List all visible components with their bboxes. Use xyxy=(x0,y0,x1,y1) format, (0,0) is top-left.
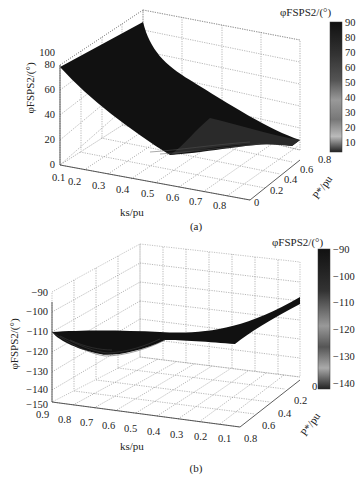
svg-text:40: 40 xyxy=(345,92,356,103)
z-ticks-a: 0 20 40 60 80 100 xyxy=(39,47,55,170)
svg-text:0.2: 0.2 xyxy=(294,395,307,406)
z-axis-label-a: φFSPS2/(°) xyxy=(24,62,37,113)
svg-text:0.4: 0.4 xyxy=(116,184,130,195)
svg-text:−110: −110 xyxy=(333,297,354,308)
svg-text:−100: −100 xyxy=(333,271,355,282)
z-ticks-b: −90 −100 −110 −120 −130 −140 −150 xyxy=(26,287,48,410)
y-axis-label-a: P*/pu xyxy=(310,173,335,201)
chart-panel-a: 0 20 40 60 80 100 φFSPS2/(°) 0.1 0.2 0.3… xyxy=(0,0,360,232)
svg-text:40: 40 xyxy=(45,109,56,120)
svg-text:70: 70 xyxy=(345,47,356,58)
svg-text:0.4: 0.4 xyxy=(278,408,292,419)
svg-text:−130: −130 xyxy=(333,351,355,362)
svg-text:0.4: 0.4 xyxy=(284,174,298,185)
z-axis-label-b: φFSPS2/(°) xyxy=(8,318,21,369)
svg-text:20: 20 xyxy=(345,122,356,133)
svg-text:0.1: 0.1 xyxy=(218,433,231,444)
svg-text:−140: −140 xyxy=(333,378,355,389)
svg-text:0.8: 0.8 xyxy=(318,154,331,165)
svg-text:−130: −130 xyxy=(26,366,48,377)
svg-text:0.3: 0.3 xyxy=(170,429,183,440)
colorbar-title-b: φFSPS2/(°) xyxy=(272,236,323,249)
svg-text:0.8: 0.8 xyxy=(58,414,71,425)
svg-text:0.7: 0.7 xyxy=(80,417,93,428)
svg-text:0: 0 xyxy=(50,159,55,170)
svg-text:0.9: 0.9 xyxy=(36,409,49,420)
svg-text:0.6: 0.6 xyxy=(166,192,179,203)
x-axis-label-a: ks/pu xyxy=(120,206,144,218)
svg-text:80: 80 xyxy=(45,59,56,70)
x-axis-label-b: ks/pu xyxy=(120,440,144,452)
svg-text:−100: −100 xyxy=(26,306,48,317)
svg-text:0.1: 0.1 xyxy=(52,172,65,183)
svg-text:0.8: 0.8 xyxy=(213,200,226,211)
svg-text:0.5: 0.5 xyxy=(141,188,154,199)
svg-text:−120: −120 xyxy=(333,324,355,335)
svg-text:0.4: 0.4 xyxy=(147,426,161,437)
svg-text:20: 20 xyxy=(45,134,56,145)
svg-text:60: 60 xyxy=(345,62,356,73)
svg-text:0.2: 0.2 xyxy=(270,185,283,196)
surface-plot-a: 0 20 40 60 80 100 φFSPS2/(°) 0.1 0.2 0.3… xyxy=(0,0,360,232)
svg-text:0.6: 0.6 xyxy=(262,420,275,431)
svg-text:−90: −90 xyxy=(32,287,48,298)
caption-b: (b) xyxy=(190,462,203,475)
svg-text:80: 80 xyxy=(345,32,356,43)
svg-text:0.2: 0.2 xyxy=(68,176,81,187)
svg-text:−90: −90 xyxy=(333,244,349,255)
colorbar-a xyxy=(330,22,342,152)
caption-a: (a) xyxy=(190,220,203,232)
svg-text:0.2: 0.2 xyxy=(194,431,207,442)
x-ticks-b: 0.9 0.8 0.7 0.6 0.5 0.4 0.3 0.2 0.1 xyxy=(36,409,231,444)
svg-text:0.3: 0.3 xyxy=(92,180,105,191)
svg-text:30: 30 xyxy=(345,107,356,118)
svg-text:0.8: 0.8 xyxy=(244,433,257,444)
svg-text:90: 90 xyxy=(345,17,356,28)
colorbar-ticks-b: −90 −100 −110 −120 −130 −140 xyxy=(333,244,355,389)
svg-text:0.6: 0.6 xyxy=(102,420,115,431)
colorbar-title-a: φFSPS2/(°) xyxy=(280,6,331,19)
svg-text:−140: −140 xyxy=(26,384,48,395)
svg-text:0.7: 0.7 xyxy=(189,196,202,207)
svg-text:10: 10 xyxy=(345,137,356,148)
x-axis-a xyxy=(60,165,250,200)
colorbar-b xyxy=(318,249,330,389)
svg-text:0: 0 xyxy=(254,197,259,208)
svg-text:−110: −110 xyxy=(27,326,48,337)
surface-b xyxy=(52,297,300,356)
svg-text:0: 0 xyxy=(312,381,317,392)
colorbar-ticks-a: 90 80 70 60 50 40 30 20 10 xyxy=(345,17,356,148)
surface-a xyxy=(60,22,300,155)
y-axis-label-b: P*/pu xyxy=(298,410,323,438)
svg-text:60: 60 xyxy=(45,84,56,95)
svg-text:0.5: 0.5 xyxy=(124,423,137,434)
svg-text:−120: −120 xyxy=(26,346,48,357)
chart-panel-b: −90 −100 −110 −120 −130 −140 −150 φFSPS2… xyxy=(0,232,360,477)
svg-text:100: 100 xyxy=(39,47,55,58)
svg-text:0.6: 0.6 xyxy=(300,164,313,175)
svg-text:50: 50 xyxy=(345,77,356,88)
surface-plot-b: −90 −100 −110 −120 −130 −140 −150 φFSPS2… xyxy=(0,232,360,477)
